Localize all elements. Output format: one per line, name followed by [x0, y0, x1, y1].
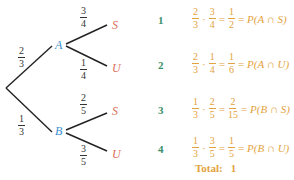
- node-b: B: [55, 124, 62, 139]
- outcome-equation-4: 13 · 35 = 15 = P(B ∩ U): [192, 136, 289, 159]
- node-a: A: [55, 38, 62, 53]
- node-b-u: U: [112, 147, 121, 162]
- outcome-index-4: 4: [158, 143, 164, 155]
- prob-a: 2 3: [18, 46, 25, 69]
- outcome-equation-2: 23 · 14 = 16 = P(A ∩ U): [192, 52, 289, 75]
- outcome-equation-1: 23 · 34 = 12 = P(A ∩ S): [192, 7, 287, 30]
- prob-u-given-b: 3 5: [80, 144, 87, 167]
- prob-s-given-b: 2 5: [80, 93, 87, 116]
- node-a-s: S: [112, 18, 118, 33]
- branch-root-a: [6, 46, 52, 88]
- outcome-index-3: 3: [158, 104, 164, 116]
- node-a-u: U: [112, 61, 121, 76]
- prob-u-given-a: 1 4: [80, 58, 87, 81]
- prob-b: 1 3: [18, 114, 25, 137]
- outcome-equation-3: 13 · 25 = 215 = P(B ∩ S): [192, 97, 290, 120]
- outcome-index-1: 1: [158, 14, 164, 26]
- branch-root-b: [6, 88, 52, 132]
- node-b-s: S: [112, 104, 118, 119]
- prob-s-given-a: 3 4: [80, 6, 87, 29]
- total-value: 1: [231, 162, 237, 174]
- outcome-index-2: 2: [158, 59, 164, 71]
- total-row: Total:1: [195, 162, 244, 174]
- total-label: Total:: [195, 162, 223, 174]
